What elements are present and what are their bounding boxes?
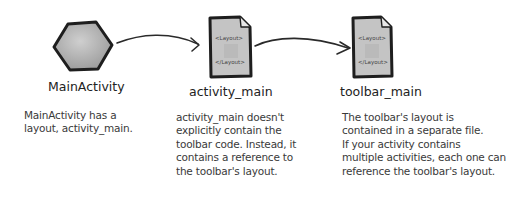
doc-open-tag: <Layout> xyxy=(215,35,243,42)
node-activity-main: <Layout> </Layout> xyxy=(206,14,254,80)
hexagon-icon xyxy=(48,18,120,74)
layout-document-icon: <Layout> </Layout> xyxy=(206,14,254,80)
arrowhead-icon xyxy=(191,38,199,51)
arrow-main-activity-to-activity-main xyxy=(117,35,198,44)
doc-close-tag: </Layout> xyxy=(358,59,388,66)
layout-document-icon: <Layout> </Layout> xyxy=(349,14,395,80)
doc-open-tag: <Layout> xyxy=(358,35,386,42)
node-label-toolbar-main: toolbar_main xyxy=(340,84,422,99)
note-toolbar-main: The toolbar's layout is contained in a s… xyxy=(342,111,506,178)
doc-close-tag: </Layout> xyxy=(215,59,245,66)
note-main-activity: MainActivity has a layout, activity_main… xyxy=(24,109,133,136)
node-toolbar-main: <Layout> </Layout> xyxy=(349,14,395,80)
node-label-main-activity: MainActivity xyxy=(48,79,125,94)
note-activity-main: activity_main doesn't explicitly contain… xyxy=(176,111,296,178)
arrow-activity-main-to-toolbar-main xyxy=(255,38,348,48)
node-main-activity xyxy=(48,18,120,74)
node-label-activity-main: activity_main xyxy=(189,84,273,99)
